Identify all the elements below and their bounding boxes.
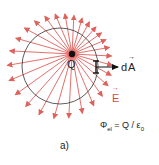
a-vector-text: A bbox=[128, 61, 135, 73]
charge-label: Q bbox=[67, 58, 76, 70]
field-line-arrow bbox=[7, 54, 72, 65]
flux-formula: Φel = Q / ε0 bbox=[100, 120, 144, 132]
area-vector-label: d A bbox=[121, 61, 135, 73]
gaussian-surface bbox=[22, 28, 98, 104]
d-text: d bbox=[121, 61, 127, 73]
formula-rhs: = Q / ε bbox=[112, 120, 141, 130]
area-element bbox=[93, 61, 118, 73]
epsilon-subscript: 0 bbox=[141, 126, 144, 132]
field-label: E bbox=[112, 92, 119, 104]
gauss-law-diagram bbox=[0, 0, 159, 165]
point-charge bbox=[69, 51, 75, 57]
figure-caption: a) bbox=[60, 140, 69, 151]
e-vector-text: E bbox=[112, 92, 119, 104]
